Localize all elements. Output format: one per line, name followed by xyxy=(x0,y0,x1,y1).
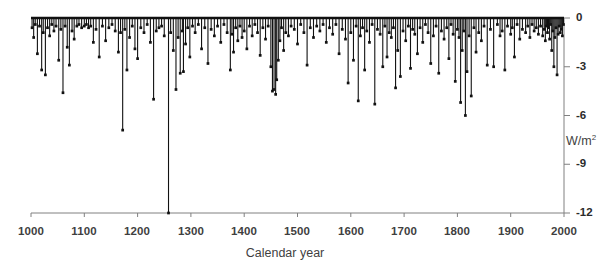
marker-1410 xyxy=(248,25,251,28)
marker-1952 xyxy=(537,33,540,36)
marker-1944 xyxy=(533,30,536,33)
marker-1889 xyxy=(503,69,506,72)
marker-1850 xyxy=(483,25,486,28)
marker-1467 xyxy=(279,39,282,42)
marker-1068 xyxy=(66,46,69,49)
marker-1572 xyxy=(335,23,338,26)
marker-1981 xyxy=(553,65,556,68)
marker-1693 xyxy=(399,75,402,78)
marker-1258 xyxy=(167,212,170,215)
marker-1140 xyxy=(104,39,107,42)
marker-1224 xyxy=(149,41,152,44)
marker-1730 xyxy=(419,26,422,29)
marker-1020 xyxy=(40,69,43,72)
marker-1680 xyxy=(392,26,395,29)
marker-1903 xyxy=(511,26,514,29)
axes-layer xyxy=(31,18,570,217)
marker-1750 xyxy=(429,62,432,65)
marker-1456 xyxy=(273,88,276,91)
marker-1425 xyxy=(256,31,259,34)
marker-1640 xyxy=(371,23,374,26)
marker-1518 xyxy=(306,64,309,67)
marker-1262 xyxy=(169,31,172,34)
marker-1430 xyxy=(259,54,262,57)
marker-1023 xyxy=(42,31,45,34)
marker-1267 xyxy=(172,49,175,52)
marker-1356 xyxy=(219,41,222,44)
marker-1806 xyxy=(459,101,462,104)
marker-1822 xyxy=(468,35,471,38)
marker-1780 xyxy=(445,26,448,29)
marker-1826 xyxy=(470,95,473,98)
marker-1362 xyxy=(223,23,226,26)
marker-1031 xyxy=(46,26,49,29)
marker-1377 xyxy=(231,33,234,36)
marker-1948 xyxy=(535,26,538,29)
marker-1566 xyxy=(331,33,334,36)
marker-1997 xyxy=(561,35,564,38)
marker-1655 xyxy=(379,33,382,36)
marker-1008 xyxy=(34,23,37,26)
marker-1668 xyxy=(386,56,389,59)
marker-1605 xyxy=(352,59,355,62)
marker-1880 xyxy=(499,35,502,38)
marker-1012 xyxy=(36,52,39,55)
marker-1698 xyxy=(402,30,405,33)
marker-1983 xyxy=(554,36,557,39)
marker-1660 xyxy=(381,65,384,68)
marker-1081 xyxy=(73,38,76,41)
marker-1999 xyxy=(562,23,565,26)
marker-1765 xyxy=(437,72,440,75)
marker-1035 xyxy=(48,35,51,38)
marker-1286 xyxy=(182,70,185,73)
marker-1272 xyxy=(175,88,178,91)
marker-1796 xyxy=(454,80,457,83)
xtick-label-1900: 1900 xyxy=(486,225,536,237)
ytick-label-minus6: -6 xyxy=(576,109,610,121)
marker-1320 xyxy=(200,48,203,51)
marker-1308 xyxy=(194,31,197,34)
marker-1388 xyxy=(236,39,239,42)
marker-1622 xyxy=(361,26,364,29)
marker-1745 xyxy=(427,31,430,34)
marker-1775 xyxy=(443,38,446,41)
xtick-label-1100: 1100 xyxy=(59,225,109,237)
xtick-label-1400: 1400 xyxy=(219,225,269,237)
marker-1840 xyxy=(477,31,480,34)
marker-1176 xyxy=(123,28,126,31)
marker-1218 xyxy=(146,23,149,26)
marker-1760 xyxy=(435,25,438,28)
marker-1845 xyxy=(480,39,483,42)
marker-1122 xyxy=(95,28,98,31)
marker-1104 xyxy=(85,23,88,26)
ytick-label-minus12: -12 xyxy=(576,206,610,218)
marker-1117 xyxy=(92,41,95,44)
marker-1027 xyxy=(44,74,47,77)
marker-1672 xyxy=(388,31,391,34)
marker-1332 xyxy=(207,62,210,65)
marker-1703 xyxy=(404,39,407,42)
marker-1542 xyxy=(319,30,322,33)
marker-1506 xyxy=(299,23,302,26)
marker-1298 xyxy=(188,56,191,59)
marker-1788 xyxy=(450,23,453,26)
volcanic-forcing-chart: 1000 1100 1200 1300 1400 1500 1600 1700 … xyxy=(0,0,616,279)
marker-1932 xyxy=(526,25,529,28)
xtick-label-1800: 1800 xyxy=(432,225,482,237)
marker-1618 xyxy=(359,35,362,38)
marker-1314 xyxy=(197,23,200,26)
marker-1276 xyxy=(177,36,180,39)
marker-1047 xyxy=(55,25,58,28)
xtick-label-2000: 2000 xyxy=(539,225,589,237)
marker-1868 xyxy=(492,65,495,68)
marker-1630 xyxy=(365,30,368,33)
marker-1688 xyxy=(396,49,399,52)
marker-1584 xyxy=(341,28,344,31)
marker-1635 xyxy=(368,41,371,44)
marker-1912 xyxy=(516,23,519,26)
marker-1928 xyxy=(524,31,527,34)
marker-1676 xyxy=(390,36,393,39)
marker-1415 xyxy=(251,35,254,38)
marker-1180 xyxy=(126,69,129,72)
y-axis-title: W/m2 xyxy=(566,133,596,148)
